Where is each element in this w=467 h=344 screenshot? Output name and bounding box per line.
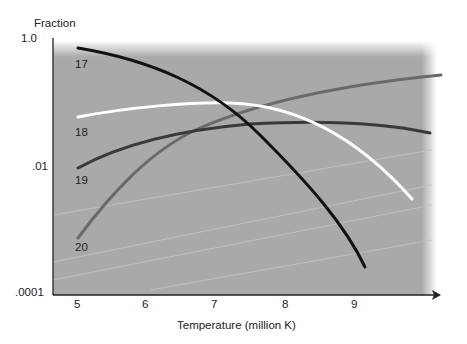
series-label-19: 19: [75, 174, 88, 186]
x-tick-label: 7: [211, 298, 217, 310]
y-tick-label: .0001: [15, 286, 44, 298]
x-tick-label: 9: [351, 298, 357, 310]
series-label-18: 18: [75, 126, 88, 138]
y-tick-label: 1.0: [21, 32, 37, 44]
x-tick-label: 6: [142, 298, 148, 310]
series-label-20: 20: [75, 241, 88, 253]
x-tick-label: 8: [282, 298, 288, 310]
y-tick-label: .01: [32, 160, 48, 172]
chart: Fraction Temperature (million K) 1.0 .01…: [0, 0, 467, 344]
x-tick-label: 5: [74, 298, 80, 310]
x-axis-title: Temperature (million K): [177, 319, 296, 331]
series-label-17: 17: [75, 58, 88, 70]
y-axis-title: Fraction: [34, 17, 76, 29]
